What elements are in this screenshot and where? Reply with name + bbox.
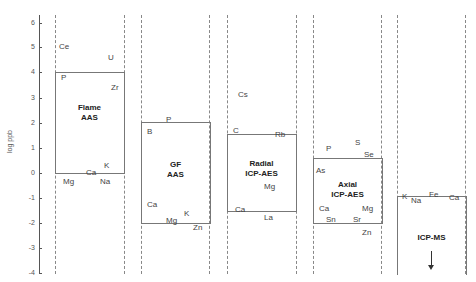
element-label: Ca xyxy=(147,201,157,209)
title-line: AAS xyxy=(55,113,124,123)
element-label: Rb xyxy=(275,131,285,139)
gf-aas-title: GF AAS xyxy=(141,160,210,179)
y-tick xyxy=(39,72,42,73)
y-tick xyxy=(39,47,42,48)
y-tick xyxy=(39,123,42,124)
y-tick-label: 0 xyxy=(21,169,35,176)
element-label: Ca xyxy=(86,169,96,177)
element-label: Zn xyxy=(362,229,371,237)
element-label: Mg xyxy=(264,183,275,191)
element-label: Ce xyxy=(59,43,69,51)
element-label: Mg xyxy=(362,205,373,213)
element-label: As xyxy=(316,167,325,175)
element-label: Mg xyxy=(166,217,177,225)
element-label: Ca xyxy=(449,194,459,202)
radial-icp-aes-title: Radial ICP-AES xyxy=(227,159,296,178)
element-label: Na xyxy=(100,178,110,186)
y-tick xyxy=(39,273,42,274)
column-guide xyxy=(313,15,314,274)
y-tick-label: 5 xyxy=(21,43,35,50)
y-tick-label: 6 xyxy=(21,19,35,26)
y-tick xyxy=(39,98,42,99)
element-label: Zn xyxy=(193,224,202,232)
title-line: AAS xyxy=(141,170,210,180)
y-tick xyxy=(39,223,42,224)
y-tick-label: -4 xyxy=(21,269,35,276)
y-tick-label: 3 xyxy=(21,94,35,101)
title-line: Axial xyxy=(313,180,382,190)
axial-icp-aes-title: Axial ICP-AES xyxy=(313,180,382,199)
element-label: C xyxy=(233,127,239,135)
element-label: P xyxy=(61,74,66,82)
y-tick-label: 2 xyxy=(21,119,35,126)
element-label: Ca xyxy=(235,206,245,214)
title-line: GF xyxy=(141,160,210,170)
y-tick-label: 1 xyxy=(21,144,35,151)
element-label: Mg xyxy=(63,178,74,186)
icp-ms-title: ICP-MS xyxy=(397,233,466,243)
element-label: S xyxy=(355,139,360,147)
y-tick xyxy=(39,198,42,199)
column-guide xyxy=(381,15,382,274)
element-label: Sr xyxy=(353,216,361,224)
element-label: K xyxy=(184,210,189,218)
y-tick-label: -1 xyxy=(21,194,35,201)
y-tick xyxy=(39,23,42,24)
element-label: K xyxy=(104,162,109,170)
element-label: P xyxy=(326,145,331,153)
y-axis-label: log ppb xyxy=(6,127,13,157)
title-line: ICP-AES xyxy=(227,169,296,179)
y-axis-line xyxy=(39,15,40,274)
element-label: P xyxy=(166,116,171,124)
title-line: Flame xyxy=(55,103,124,113)
element-label: Sn xyxy=(326,216,336,224)
element-label: Na xyxy=(411,197,421,205)
y-tick xyxy=(39,173,42,174)
element-label: Cs xyxy=(238,91,248,99)
flame-aas-title: Flame AAS xyxy=(55,103,124,122)
down-arrow-icon xyxy=(428,265,434,270)
y-tick xyxy=(39,248,42,249)
element-label: U xyxy=(108,54,114,62)
element-label: Se xyxy=(364,151,374,159)
title-line: ICP-AES xyxy=(313,190,382,200)
y-tick-label: -3 xyxy=(21,244,35,251)
element-label: Ca xyxy=(319,205,329,213)
y-tick-label: 4 xyxy=(21,68,35,75)
element-label: Zr xyxy=(111,84,119,92)
element-label: La xyxy=(264,214,273,222)
title-line: Radial xyxy=(227,159,296,169)
element-label: K xyxy=(402,193,407,201)
down-arrow-shaft xyxy=(431,251,432,265)
element-label: Fe xyxy=(429,191,438,199)
element-label: B xyxy=(147,128,152,136)
y-tick-label: -2 xyxy=(21,219,35,226)
y-tick xyxy=(39,148,42,149)
